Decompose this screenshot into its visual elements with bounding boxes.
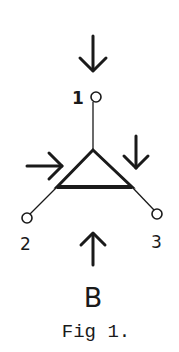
arrow-down-right-icon [124, 136, 148, 168]
terminal-node-1 [91, 92, 101, 102]
diagram-canvas: 1 2 3 B Fig 1. [0, 0, 179, 352]
figure-caption: Fig 1. [62, 321, 130, 343]
lead-wire-2 [30, 187, 57, 214]
triangle-element [57, 150, 132, 187]
arrow-down-icon [80, 36, 106, 71]
terminal-node-3 [152, 209, 162, 219]
node-2-label: 2 [20, 234, 31, 254]
component-label: B [84, 282, 103, 313]
node-3-label: 3 [151, 232, 162, 252]
node-1-label: 1 [72, 88, 84, 108]
arrow-right-icon [27, 153, 62, 179]
terminal-node-2 [22, 213, 32, 223]
lead-wire-3 [132, 187, 154, 210]
arrow-up-icon [81, 233, 105, 265]
